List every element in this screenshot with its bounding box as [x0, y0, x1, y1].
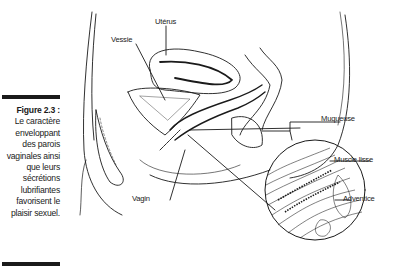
label-adventitia: Adventice: [343, 194, 375, 203]
figure-number: Figure 2.3 :: [0, 105, 60, 116]
figure-caption-sidebar: Figure 2.3 : Le caractère enveloppant de…: [0, 95, 62, 219]
label-mucosa: Muqueuse: [321, 114, 355, 123]
figure-caption: Figure 2.3 : Le caractère enveloppant de…: [0, 105, 62, 219]
label-smooth-muscle: Muscle lisse: [334, 155, 373, 164]
label-bladder: Vessie: [111, 35, 132, 44]
caption-bottom-rule: [2, 262, 60, 266]
label-vagina: Vagin: [132, 194, 150, 203]
caption-top-rule: [2, 95, 60, 99]
caption-text: Le caractère enveloppant des parois vagi…: [7, 116, 60, 217]
label-uterus: Utérus: [155, 17, 176, 26]
